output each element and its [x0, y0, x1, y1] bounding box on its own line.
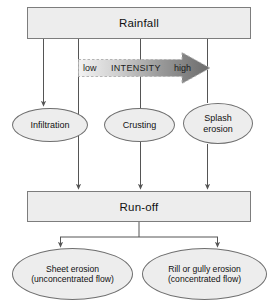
- node-infiltration-label: Infiltration: [30, 120, 69, 131]
- node-rill-gully-erosion: Rill or gully erosion (concentrated flow…: [142, 248, 267, 300]
- node-rill-gully-erosion-label: Rill or gully erosion (concentrated flow…: [168, 264, 241, 285]
- intensity-high-label: high: [174, 52, 191, 84]
- node-runoff: Run-off: [27, 191, 251, 222]
- intensity-gradient-arrow: low INTENSITY high: [78, 52, 211, 84]
- intensity-low-label: low: [83, 52, 97, 84]
- node-infiltration: Infiltration: [12, 108, 88, 142]
- intensity-axis-label: INTENSITY: [111, 52, 161, 84]
- diagram-canvas: Rainfall low INTENSITY high Infiltration: [0, 0, 277, 308]
- node-rainfall: Rainfall: [27, 7, 251, 39]
- node-rainfall-label: Rainfall: [119, 17, 159, 29]
- node-runoff-label: Run-off: [120, 201, 159, 213]
- node-sheet-erosion-label: Sheet erosion (unconcentrated flow): [31, 264, 114, 285]
- node-splash-erosion-label: Splash erosion: [203, 113, 233, 134]
- node-crusting: Crusting: [104, 108, 175, 142]
- node-splash-erosion: Splash erosion: [183, 103, 253, 144]
- node-sheet-erosion: Sheet erosion (unconcentrated flow): [12, 248, 133, 300]
- node-crusting-label: Crusting: [123, 120, 157, 131]
